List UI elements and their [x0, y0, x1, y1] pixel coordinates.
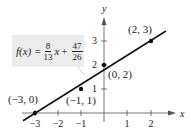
x-axis-label: x [179, 108, 185, 119]
x-tick-label: 1 [125, 118, 130, 129]
point-label: (0, 2) [108, 68, 132, 81]
y-axis-label: y [101, 3, 107, 14]
y-axis-arrow-icon [102, 17, 107, 25]
x-axis-arrow-icon [168, 111, 176, 116]
data-point [79, 87, 83, 91]
point-label: (−1, 1) [66, 94, 96, 107]
y-tick-label: 3 [92, 35, 97, 46]
data-point [33, 111, 37, 115]
y-tick-label: 1 [92, 83, 97, 94]
x-tick-label: −1 [76, 118, 87, 129]
graph-canvas: −3 −2 −1 1 2 1 2 3 x y (−3, 0) (−1, 1) (… [0, 0, 191, 134]
equation-leader-line [78, 67, 84, 75]
data-point [149, 39, 153, 43]
x-tick-label: −3 [30, 118, 41, 129]
y-tick-label: 2 [92, 59, 97, 70]
point-label: (−3, 0) [8, 93, 38, 106]
x-tick-label: −2 [53, 118, 64, 129]
x-tick-label: 2 [149, 118, 154, 129]
data-point [102, 63, 106, 67]
point-label: (2, 3) [128, 23, 152, 36]
